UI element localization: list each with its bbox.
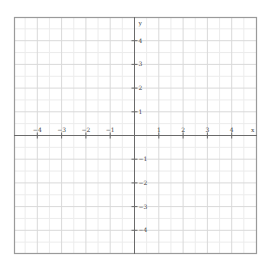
x-tick-label: −1 [106, 126, 115, 133]
x-tick-label: 1 [157, 126, 161, 133]
x-axis-label: x [251, 126, 255, 133]
x-tick-label: −4 [33, 126, 42, 133]
y-tick-label: 3 [139, 60, 143, 67]
y-axis-label: y [138, 19, 143, 27]
y-tick-label: 4 [139, 37, 143, 44]
y-tick-label: −2 [139, 179, 148, 186]
x-tick-label: 3 [205, 126, 209, 133]
y-tick-label: −4 [139, 226, 148, 233]
x-tick-label: −2 [81, 126, 90, 133]
y-tick-label: 2 [139, 84, 143, 91]
x-tick-label: 2 [181, 126, 185, 133]
y-tick-label: −1 [139, 155, 148, 162]
y-tick-label: 1 [139, 108, 143, 115]
coordinate-plane: −4−3−2−11234 −4−3−2−11234 x y [0, 0, 269, 270]
y-tick-label: −3 [139, 203, 148, 210]
x-tick-label: −3 [57, 126, 66, 133]
x-tick-labels: −4−3−2−11234 [33, 126, 234, 133]
x-tick-label: 4 [230, 126, 234, 133]
